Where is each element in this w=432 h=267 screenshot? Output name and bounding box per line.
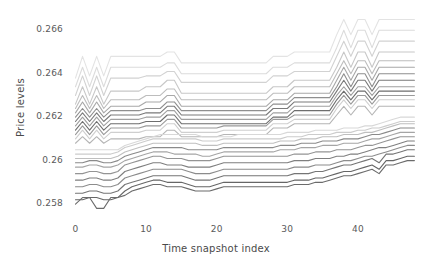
y-axis-title: Price levels — [15, 48, 26, 168]
plot-area — [67, 14, 425, 216]
series-line — [75, 117, 414, 150]
y-tick-label: 0.26 — [0, 155, 63, 165]
series-line — [75, 61, 414, 109]
x-tick-label: 20 — [197, 224, 237, 234]
chart-figure: 0.2660.2640.2620.260.258 010203040 Time … — [0, 0, 432, 267]
x-axis-title: Time snapshot index — [0, 243, 432, 254]
y-tick-label: 0.264 — [0, 68, 63, 78]
y-tick-label: 0.262 — [0, 111, 63, 121]
y-tick-label: 0.266 — [0, 24, 63, 34]
line-chart-svg — [67, 14, 425, 216]
y-tick-label: 0.258 — [0, 198, 63, 208]
x-tick-label: 0 — [55, 224, 95, 234]
x-tick-label: 10 — [126, 224, 166, 234]
series-line — [75, 19, 414, 78]
x-tick-label: 40 — [338, 224, 378, 234]
x-tick-label: 30 — [267, 224, 307, 234]
